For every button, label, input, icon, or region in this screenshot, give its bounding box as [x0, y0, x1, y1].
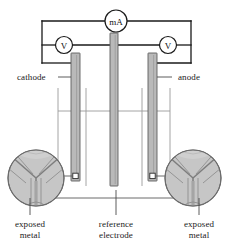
exposed-metal-marker-cathode: [73, 173, 78, 178]
anode-electrode: [148, 53, 157, 181]
meter-voltmeter-left: V: [56, 37, 73, 54]
corrosion-cell-figure: mA V V: [0, 0, 233, 252]
label-exposed-metal-left: exposed metal: [2, 219, 58, 240]
reference-electrode: [110, 33, 118, 186]
inset-grain-structure-right: [165, 148, 221, 212]
label-reference-electrode-line1: reference: [88, 219, 144, 230]
label-exposed-metal-right-line1: exposed: [171, 219, 227, 230]
inset-grain-structure-left: [8, 148, 64, 212]
cathode-electrode: [71, 53, 80, 181]
figure-canvas: mA V V: [0, 0, 233, 252]
label-exposed-metal-left-line2: metal: [2, 230, 58, 241]
meter-ammeter: mA: [105, 10, 127, 32]
label-reference-electrode: reference electrode: [88, 219, 144, 240]
label-exposed-metal-right-line2: metal: [171, 230, 227, 241]
label-exposed-metal-left-line1: exposed: [2, 219, 58, 230]
voltmeter-left-label: V: [61, 41, 68, 51]
ammeter-label: mA: [109, 17, 123, 27]
label-anode: anode: [178, 72, 200, 83]
meter-voltmeter-right: V: [160, 37, 177, 54]
exposed-metal-marker-anode: [150, 173, 155, 178]
label-exposed-metal-right: exposed metal: [171, 219, 227, 240]
voltmeter-right-label: V: [165, 41, 172, 51]
label-cathode: cathode: [17, 72, 46, 83]
electrode-bars: [71, 33, 157, 186]
label-reference-electrode-line2: electrode: [88, 230, 144, 241]
